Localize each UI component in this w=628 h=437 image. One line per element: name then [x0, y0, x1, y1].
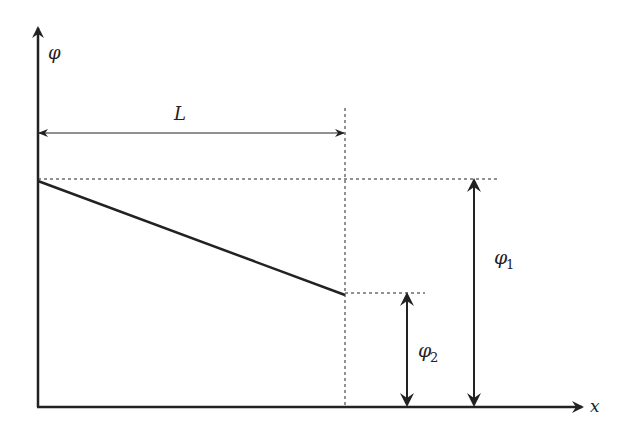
svg-text:1: 1 — [506, 257, 514, 272]
guide-lines — [38, 108, 497, 407]
phi-profile-line — [38, 181, 345, 295]
x-axis-label: x — [590, 396, 600, 416]
y-axis-label: φ — [48, 42, 61, 63]
phi1-label: φ 1 — [494, 246, 514, 272]
length-label: L — [173, 103, 186, 124]
phi2-label: φ 2 — [418, 339, 438, 365]
svg-text:2: 2 — [430, 350, 438, 365]
diagram-canvas: φ x L φ 1 φ 2 — [0, 0, 628, 437]
